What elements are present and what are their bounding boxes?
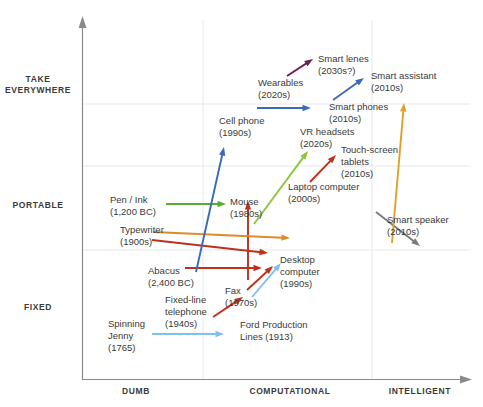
technology-portability-intelligence-chart: TAKE EVERYWHEREPORTABLEFIXEDDUMBCOMPUTAT… <box>0 0 483 407</box>
annotation-desktop-computer: Desktop computer (1990s) <box>280 254 320 290</box>
wearables-arrow-head <box>304 59 313 66</box>
wearables-arrow <box>287 59 313 76</box>
typewriter-arrow <box>152 240 268 255</box>
annotation-abacus: Abacus (2,400 BC) <box>148 265 194 289</box>
annotation-smart-phones: Smart phones (2010s) <box>329 101 388 125</box>
laptop-computer-arrow-head <box>281 234 290 240</box>
x-axis-tick-label: DUMB <box>76 386 196 397</box>
x-axis-arrowhead <box>460 376 472 384</box>
annotation-touch-screen-tablets: Touch-screen tablets (2010s) <box>341 144 398 180</box>
annotation-ford-production-lines: Ford Production Lines (1913) <box>240 319 308 343</box>
laptop-computer-arrow-shaft <box>153 232 283 238</box>
y-axis-arrowhead <box>79 16 87 28</box>
wearables-arrow-shaft <box>287 63 307 76</box>
y-axis-tick-label: TAKE EVERYWHERE <box>0 74 76 97</box>
annotation-spinning-jenny: Spinning Jenny (1765) <box>108 318 145 354</box>
smart-phones-arrow-head <box>303 105 312 111</box>
annotation-mouse: Mouse (1980s) <box>230 196 262 220</box>
smart-assistant-arrow-shaft <box>333 82 358 100</box>
annotation-laptop-computer: Laptop computer (2000s) <box>288 181 359 205</box>
cell-phone-arrow-head <box>219 147 225 156</box>
y-axis-tick-label: FIXED <box>0 302 76 313</box>
annotation-smart-speaker: Smart speaker (2010s) <box>387 214 449 238</box>
pen-ink-arrow-head <box>218 201 227 207</box>
smart-assistant-arrow <box>333 78 364 100</box>
cell-phone-arrow-shaft <box>196 154 222 272</box>
pen-ink-arrow <box>166 201 226 207</box>
laptop-computer-arrow <box>153 232 290 241</box>
annotation-typewriter: Typewriter (1900s) <box>120 224 164 248</box>
touch-screen-tablets-arrow <box>310 155 336 182</box>
y-axis-tick-label: PORTABLE <box>0 200 76 211</box>
annotation-pen-ink: Pen / Ink (1,200 BC) <box>110 194 156 218</box>
annotation-wearables: Wearables (2020s) <box>258 77 303 101</box>
smart-phones-arrow <box>257 105 311 111</box>
x-axis-tick-label: COMPUTATIONAL <box>230 386 350 397</box>
annotation-smart-lenes: Smart lenes (2030s?) <box>318 53 369 77</box>
touch-screen-tablets-arrow-shaft <box>310 160 331 182</box>
x-axis-tick-label: INTELLIGENT <box>360 386 480 397</box>
annotation-fixed-line-telephone: Fixed-line telephone (1940s) <box>165 294 207 330</box>
spinning-jenny-arrow-head <box>216 331 225 337</box>
annotation-cell-phone: Cell phone (1990s) <box>219 115 264 139</box>
annotation-fax: Fax (1970s) <box>225 285 257 309</box>
annotation-smart-assistant: Smart assistant (2010s) <box>371 70 436 94</box>
abacus-arrow-head <box>254 265 263 271</box>
spinning-jenny-arrow <box>152 331 224 337</box>
